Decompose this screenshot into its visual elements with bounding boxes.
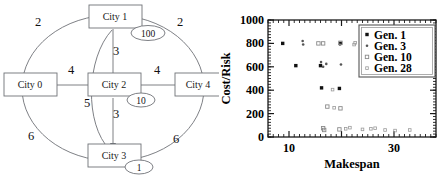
data-point (338, 87, 341, 90)
y-axis-title: Cost/Risk (219, 52, 233, 104)
legend-marker (365, 33, 368, 36)
y-tick-label: 600 (246, 60, 264, 74)
chart-legend[interactable]: Gen. 1Gen. 3Gen. 10Gen. 28 (359, 25, 435, 77)
y-tick-label: 200 (246, 107, 264, 121)
data-point (340, 63, 343, 66)
y-tick-label: 800 (246, 36, 264, 50)
node-city0-label: City 0 (18, 79, 43, 90)
edge-weight-city0-city1: 2 (35, 15, 41, 29)
screenshot-root: City 0 City 1 City 2 City 3 City 4 2 (0, 0, 439, 178)
pareto-scatter-chart: 020040060080010001030MakespanCost/Risk G… (219, 0, 439, 178)
node-city4-label: City 4 (186, 79, 211, 90)
data-point (281, 42, 284, 45)
data-point (320, 61, 323, 64)
legend-marker (366, 44, 369, 47)
node-city1[interactable]: City 1 (89, 5, 142, 28)
edge-weight-city0-city2: 4 (68, 63, 75, 77)
bubble-city2-value: 10 (136, 96, 146, 106)
node-city2[interactable]: City 2 (88, 73, 141, 96)
edge-weight-city1-city4: 2 (177, 15, 183, 29)
data-point (320, 86, 323, 89)
scatter-chart-svg: 020040060080010001030MakespanCost/Risk G… (219, 0, 439, 178)
data-point (294, 64, 297, 67)
edge-weight-city3-city4: 6 (173, 132, 179, 146)
node-city1-label: City 1 (103, 11, 128, 22)
data-point (301, 40, 304, 43)
x-tick-label: 10 (283, 141, 295, 155)
node-city2-label: City 2 (102, 79, 127, 90)
data-point (325, 63, 328, 66)
y-tick-label: 1000 (240, 13, 264, 27)
data-point (322, 66, 325, 69)
edge-weight-city2-city3: 3 (113, 107, 119, 121)
legend-label: Gen. 3 (374, 40, 406, 52)
node-city4[interactable]: City 4 (175, 73, 219, 96)
bubble-city3-value: 1 (137, 163, 142, 173)
node-city3-label: City 3 (102, 150, 127, 161)
edge-weight-city2-city4: 4 (154, 63, 161, 77)
city-graph-svg: City 0 City 1 City 2 City 3 City 4 2 (0, 0, 219, 178)
bubble-city2: 10 (127, 93, 155, 107)
edge-weight-city0-city3: 6 (28, 129, 34, 143)
edge-weight-city1-city3: 5 (84, 96, 90, 110)
bubble-city3: 1 (125, 160, 153, 174)
legend-label: Gen. 10 (374, 51, 412, 63)
x-axis-title: Makespan (324, 157, 380, 171)
legend-label: Gen. 28 (374, 62, 412, 74)
data-point (319, 64, 322, 67)
y-tick-label: 0 (258, 130, 264, 144)
y-tick-label: 400 (246, 83, 264, 97)
city-network-diagram: City 0 City 1 City 2 City 3 City 4 2 (0, 0, 219, 178)
bubble-city1-value: 100 (141, 29, 156, 39)
node-city0[interactable]: City 0 (4, 73, 57, 96)
data-point (302, 43, 305, 46)
edge-weight-city1-city2: 3 (113, 44, 119, 58)
x-tick-label: 30 (388, 141, 400, 155)
legend-label: Gen. 1 (374, 29, 406, 41)
bubble-city1: 100 (131, 26, 165, 41)
